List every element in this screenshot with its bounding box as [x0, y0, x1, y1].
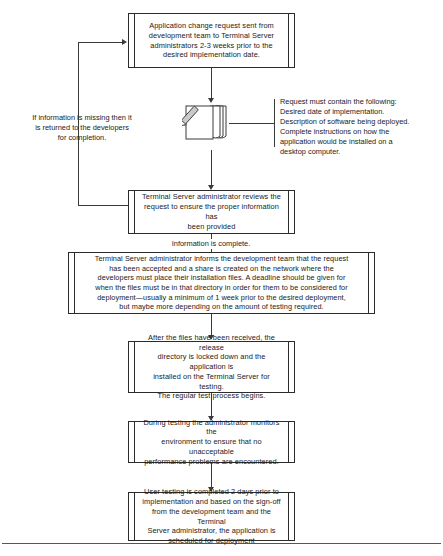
document-stack-with-pencil-icon [182, 103, 248, 150]
node-files-received: After the files have been received, the … [128, 341, 295, 393]
connector-node1-to-document [211, 68, 212, 101]
node-monitor-testing-label: During testing the administrator monitor… [129, 418, 294, 467]
node-request-sent-label: Application change request sent from dev… [138, 21, 285, 60]
node-request-sent: Application change request sent from dev… [128, 13, 295, 68]
node-files-received-label: After the files have been received, the … [129, 333, 294, 401]
information-complete-label: Information is complete. [146, 239, 276, 249]
node-admin-reviews-label: Terminal Server administrator reviews th… [129, 192, 294, 231]
feedback-note: If information is missing then it is ret… [8, 113, 156, 143]
feedback-arrowhead [122, 39, 127, 45]
connector-document-to-callout [229, 123, 274, 124]
node-monitor-testing: During testing the administrator monitor… [128, 421, 295, 463]
node-admin-informs-label: Terminal Server administrator informs th… [82, 254, 362, 312]
callout-bracket [274, 99, 275, 147]
node-admin-informs: Terminal Server administrator informs th… [68, 252, 375, 314]
node-user-testing-label: User testing is completed 2 days prior t… [129, 487, 294, 546]
connector-document-to-node2 [211, 150, 212, 188]
flowchart-page: Application change request sent from dev… [0, 0, 443, 556]
node-admin-reviews: Terminal Server administrator reviews th… [128, 190, 295, 234]
feedback-line-bottom [78, 205, 128, 206]
feedback-line-top [78, 42, 122, 43]
node-user-testing: User testing is completed 2 days prior t… [128, 492, 295, 541]
document-callout-note: Request must contain the following: Desi… [280, 97, 440, 157]
